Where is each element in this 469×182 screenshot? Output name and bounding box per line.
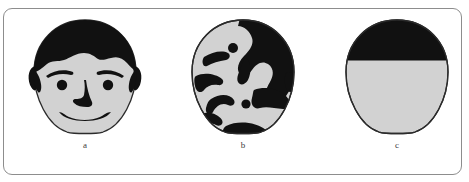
blob-right-edge (285, 72, 297, 92)
blob-dot-lower (241, 99, 250, 108)
black-top-region (340, 14, 454, 60)
figure-panel-b: b (168, 14, 318, 164)
right-eye (103, 80, 113, 90)
intact-face-figure (10, 14, 160, 139)
left-eye (57, 80, 67, 90)
control-oval-figure (322, 14, 469, 139)
panel-label-b: b (168, 140, 318, 151)
scrambled-face-figure (168, 14, 318, 139)
figure-panel-c: c (322, 14, 469, 164)
figure-panel-a: a (10, 14, 160, 164)
blob-dot-upper (228, 43, 238, 53)
panel-label-a: a (10, 140, 160, 151)
panel-label-c: c (322, 140, 469, 151)
figure-root: a (0, 0, 469, 182)
